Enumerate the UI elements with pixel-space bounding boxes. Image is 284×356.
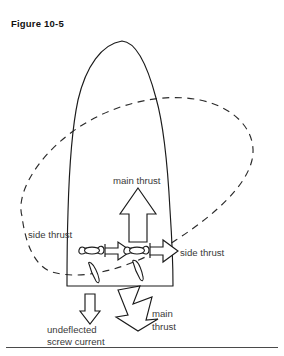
main-thrust-label-bottom-line2: thrust [152, 321, 176, 332]
propeller-glyph-right [124, 246, 149, 254]
main-thrust-label-bottom-line1: main [152, 308, 173, 319]
undeflected-screw-current-arrow [80, 294, 100, 324]
rudder-blade-left [89, 262, 100, 282]
propeller-glyph-left [79, 246, 104, 254]
main-thrust-label-top: main thrust [113, 175, 161, 186]
undeflected-label: undeflected [47, 324, 97, 335]
bottom-horizontal-rule [6, 347, 278, 348]
thrust-diagram: main thrust side thrust side thrust [0, 0, 284, 356]
main-thrust-arrow [120, 188, 156, 242]
figure-page: Figure 10-5 main thrust side thrust [0, 0, 284, 356]
side-thrust-arrow-right [150, 240, 178, 262]
side-thrust-label-left: side thrust [28, 229, 73, 240]
screw-current-label: screw current [47, 336, 105, 347]
side-thrust-label-right: side thrust [180, 247, 225, 258]
rudder-blade-right [133, 260, 144, 280]
